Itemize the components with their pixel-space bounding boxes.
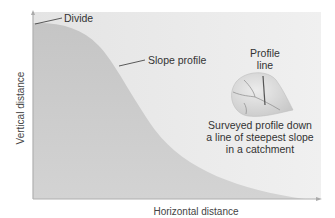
divide-label: Divide (64, 12, 93, 24)
caption-line-2: a line of steepest slope (205, 131, 315, 143)
slope-profile-diagram: Divide Slope profile Profile line Survey… (0, 0, 335, 218)
caption-line-3: in a catchment (205, 143, 315, 155)
profile-line-label-line2: line (246, 59, 284, 71)
diagram-canvas (0, 0, 335, 218)
catchment-caption: Surveyed profile down a line of steepest… (205, 119, 315, 155)
y-axis-label: Vertical distance (15, 72, 26, 145)
profile-line-label: Profile line (246, 47, 284, 71)
x-axis-label: Horizontal distance (153, 206, 238, 217)
caption-line-1: Surveyed profile down (205, 119, 315, 131)
slope-profile-label: Slope profile (148, 54, 206, 66)
profile-line-label-line1: Profile (246, 47, 284, 59)
